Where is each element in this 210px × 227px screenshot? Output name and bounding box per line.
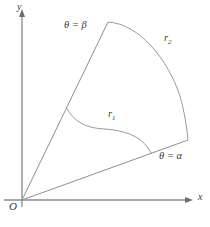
r1-subscript: 1	[112, 114, 116, 122]
x-axis-label: x	[198, 192, 202, 202]
origin-label: O	[9, 201, 17, 212]
theta-alpha-label: θ = α	[159, 151, 182, 162]
x-axis-arrow-icon	[185, 197, 193, 203]
polar-region-figure: y x O θ = β θ = α r2 r1	[0, 0, 210, 227]
r1-label: r1	[108, 109, 116, 122]
theta-beta-label: θ = β	[64, 20, 87, 31]
figure-canvas	[0, 0, 210, 227]
r2-label: r2	[164, 33, 172, 46]
y-axis-label: y	[17, 2, 21, 12]
outer-boundary-curve	[108, 22, 188, 140]
r2-subscript: 2	[168, 38, 172, 46]
